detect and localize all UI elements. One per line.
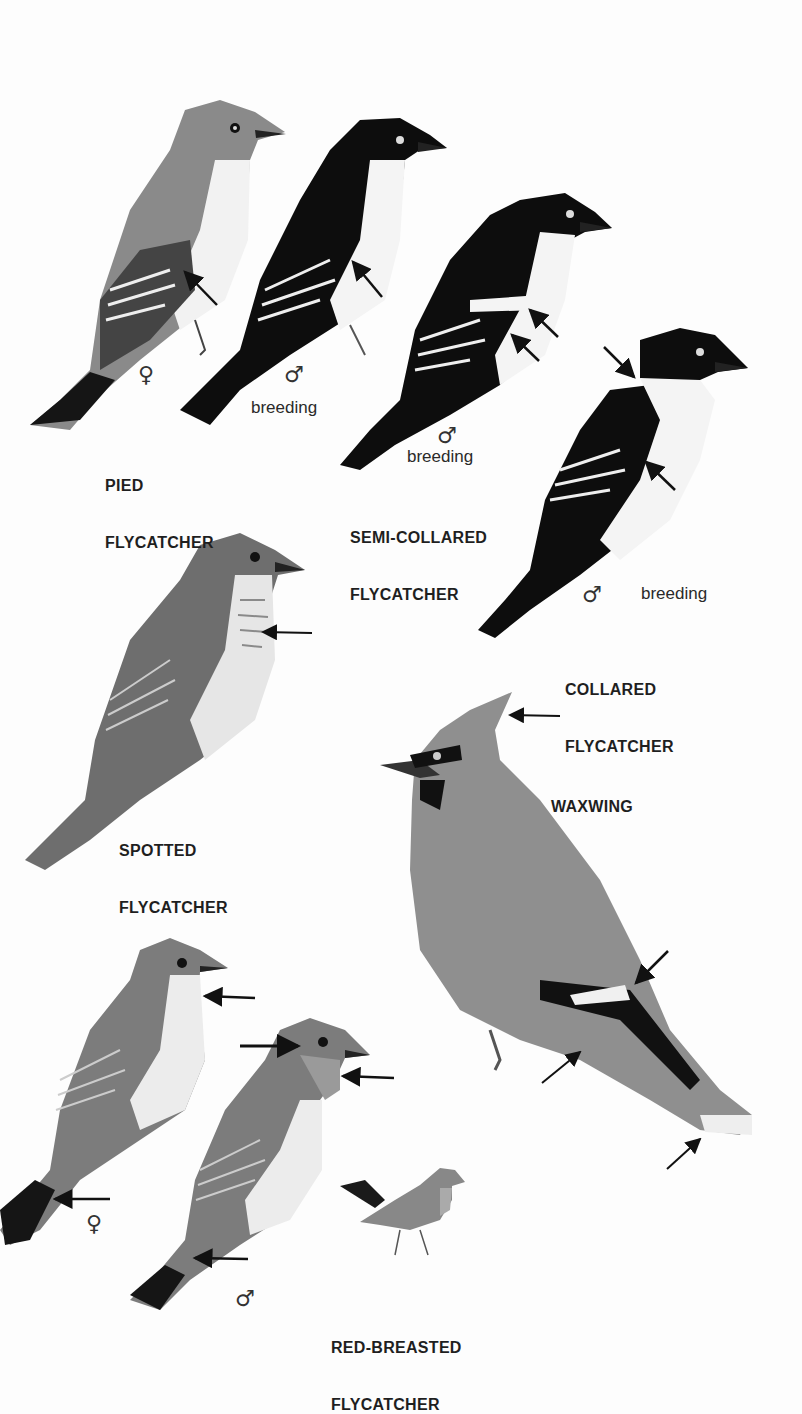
arrow-icon	[542, 1052, 580, 1083]
species-name-line2: FLYCATCHER	[119, 898, 228, 917]
plumage-note: breeding	[407, 447, 473, 467]
arrow-icon	[263, 632, 312, 633]
male-symbol-icon: ♂	[582, 584, 602, 606]
species-label-pied-flycatcher: PIED FLYCATCHER	[105, 438, 214, 590]
species-name-line1: PIED	[105, 476, 214, 495]
plumage-note: breeding	[251, 398, 317, 418]
species-name-line2: FLYCATCHER	[331, 1395, 462, 1414]
red-breasted-flycatcher-tail-display-illustration	[340, 1168, 465, 1255]
plumage-note: breeding	[641, 584, 707, 604]
arrow-icon	[510, 715, 560, 716]
male-symbol-icon: ♂	[235, 1288, 255, 1310]
arrow-icon	[343, 1076, 394, 1078]
species-label-semi-collared-flycatcher: SEMI-COLLARED FLYCATCHER	[350, 490, 487, 642]
arrow-icon	[195, 1258, 248, 1259]
species-label-waxwing: WAXWING	[551, 759, 633, 854]
female-symbol-icon: ♀	[138, 364, 154, 386]
collared-flycatcher-male-illustration	[478, 328, 748, 638]
species-name-line2: FLYCATCHER	[350, 585, 487, 604]
male-symbol-icon: ♂	[437, 425, 457, 447]
arrow-icon	[604, 347, 634, 377]
species-label-spotted-flycatcher: SPOTTED FLYCATCHER	[119, 803, 228, 955]
species-name-line1: SEMI-COLLARED	[350, 528, 487, 547]
species-name-line1: SPOTTED	[119, 841, 228, 860]
species-name-line2: FLYCATCHER	[565, 737, 674, 756]
arrow-icon	[667, 1139, 700, 1169]
species-name-line1: COLLARED	[565, 680, 674, 699]
species-name-line1: RED-BREASTED	[331, 1338, 462, 1357]
male-symbol-icon: ♂	[284, 364, 304, 386]
arrow-icon	[205, 996, 255, 998]
species-label-red-breasted-flycatcher: RED-BREASTED FLYCATCHER	[331, 1300, 462, 1414]
species-name-line2: FLYCATCHER	[105, 533, 214, 552]
female-symbol-icon: ♀	[86, 1213, 102, 1235]
species-name-line1: WAXWING	[551, 797, 633, 816]
